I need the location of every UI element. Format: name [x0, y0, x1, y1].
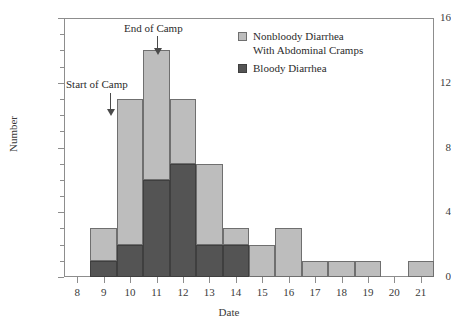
bar-segment-nonbloody-9 — [90, 228, 116, 260]
y-tick-label-4: 4 — [399, 206, 451, 217]
legend-item-bloody: Bloody Diarrhea — [238, 62, 363, 76]
bar-segment-bloody-12 — [170, 164, 196, 277]
y-tick-14 — [60, 50, 64, 51]
histogram-figure: 0481216 89101112131415161718192021 Numbe… — [0, 0, 451, 333]
y-tick-0 — [58, 277, 64, 278]
y-tick-label-0: 0 — [399, 271, 451, 282]
annotation-start-of-camp-arrowhead-icon — [107, 109, 115, 116]
y-tick-1 — [60, 261, 64, 262]
annotation-end-of-camp-label: End of Camp — [124, 22, 183, 34]
bar-segment-bloody-10 — [117, 245, 143, 277]
x-tick-8 — [77, 277, 78, 283]
bar-segment-bloody-11 — [143, 180, 169, 277]
bar-segment-bloody-9 — [90, 261, 116, 277]
bar-segment-nonbloody-11 — [143, 50, 169, 180]
bar-date-13 — [196, 164, 222, 277]
x-tick-21 — [421, 277, 422, 283]
y-tick-4 — [58, 212, 64, 213]
bar-segment-nonbloody-18 — [328, 261, 354, 277]
x-axis-title: Date — [199, 306, 259, 318]
y-tick-label-8: 8 — [399, 142, 451, 153]
bar-segment-nonbloody-16 — [275, 228, 301, 277]
x-tick-14 — [236, 277, 237, 283]
x-tick-13 — [209, 277, 210, 283]
bar-date-9 — [90, 228, 116, 277]
annotation-start-of-camp-label: Start of Camp — [66, 78, 128, 90]
x-tick-18 — [342, 277, 343, 283]
x-tick-19 — [368, 277, 369, 283]
chart-legend: Nonbloody Diarrhea With Abdominal Cramps… — [238, 30, 363, 81]
y-tick-12 — [58, 83, 64, 84]
y-tick-2 — [60, 245, 64, 246]
y-tick-11 — [60, 99, 64, 100]
annotation-start-of-camp-arrow-line-icon — [110, 93, 111, 110]
y-tick-7 — [60, 164, 64, 165]
x-tick-11 — [157, 277, 158, 283]
legend-item-nonbloody: Nonbloody Diarrhea With Abdominal Cramps — [238, 30, 363, 57]
legend-label-bloody: Bloody Diarrhea — [253, 62, 327, 76]
bar-date-16 — [275, 228, 301, 277]
x-tick-12 — [183, 277, 184, 283]
annotation-end-of-camp-arrowhead-icon — [154, 48, 162, 55]
bar-segment-nonbloody-15 — [249, 245, 275, 277]
bar-date-12 — [170, 99, 196, 277]
x-tick-16 — [289, 277, 290, 283]
legend-label-nonbloody: Nonbloody Diarrhea With Abdominal Cramps — [253, 30, 363, 57]
y-tick-5 — [60, 196, 64, 197]
bar-segment-nonbloody-10 — [117, 99, 143, 245]
bar-segment-nonbloody-17 — [302, 261, 328, 277]
bar-date-14 — [223, 228, 249, 277]
bar-date-10 — [117, 99, 143, 277]
bar-segment-nonbloody-13 — [196, 164, 222, 245]
x-tick-17 — [315, 277, 316, 283]
y-tick-10 — [60, 115, 64, 116]
legend-swatch-bloody-icon — [238, 64, 247, 73]
bar-date-15 — [249, 245, 275, 277]
bar-segment-bloody-13 — [196, 245, 222, 277]
x-tick-10 — [130, 277, 131, 283]
bar-segment-nonbloody-12 — [170, 99, 196, 164]
legend-swatch-nonbloody-icon — [238, 32, 247, 41]
bar-segment-nonbloody-14 — [223, 228, 249, 244]
y-tick-16 — [58, 18, 64, 19]
y-tick-label-12: 12 — [399, 77, 451, 88]
y-tick-15 — [60, 34, 64, 35]
y-axis-title: Number — [7, 99, 19, 169]
x-tick-20 — [394, 277, 395, 283]
bar-date-19 — [355, 261, 381, 277]
y-tick-9 — [60, 131, 64, 132]
x-tick-9 — [104, 277, 105, 283]
bar-date-17 — [302, 261, 328, 277]
y-tick-label-16: 16 — [399, 12, 451, 23]
x-tick-label-21: 21 — [406, 286, 436, 298]
y-tick-8 — [58, 148, 64, 149]
x-tick-15 — [262, 277, 263, 283]
bar-segment-nonbloody-19 — [355, 261, 381, 277]
y-tick-13 — [60, 67, 64, 68]
bar-date-18 — [328, 261, 354, 277]
bar-date-11 — [143, 50, 169, 277]
y-tick-3 — [60, 228, 64, 229]
bar-segment-bloody-14 — [223, 245, 249, 277]
y-tick-6 — [60, 180, 64, 181]
